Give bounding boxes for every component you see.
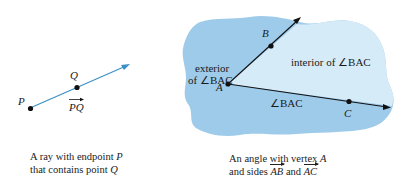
point-c	[346, 99, 351, 104]
left-caption-line1: A ray with endpoint P	[30, 150, 123, 163]
label-ray-pq: PQ	[68, 101, 84, 113]
point-q	[74, 85, 79, 90]
label-b: B	[262, 27, 269, 39]
angle-label: ∠BAC	[270, 97, 303, 109]
angle-bac-figure: B A C exterior of ∠BAC interior of ∠BAC …	[183, 16, 394, 136]
right-caption: An angle with vertex A and sides AB and …	[229, 152, 326, 178]
ray-ac-notation: AC	[304, 165, 317, 178]
label-q: Q	[70, 69, 78, 81]
label-c: C	[344, 107, 352, 119]
left-caption: A ray with endpoint P that contains poin…	[30, 150, 123, 176]
interior-label: interior of ∠BAC	[291, 56, 371, 68]
label-p: P	[17, 95, 25, 107]
ray-pq-figure: P Q PQ	[17, 64, 130, 113]
figure-stage: P Q PQ B A C exterior of ∠BAC interior o…	[0, 0, 407, 192]
ray-ab-notation: AB	[270, 165, 283, 178]
exterior-label-line2: of ∠BAC	[188, 74, 233, 86]
exterior-label-line1: exterior	[195, 62, 230, 74]
point-b	[268, 43, 273, 48]
ray-arrowhead-icon	[121, 64, 130, 70]
right-caption-line2: and sides AB and AC	[229, 165, 326, 178]
point-p	[28, 106, 33, 111]
left-caption-line2: that contains point Q	[30, 163, 123, 176]
